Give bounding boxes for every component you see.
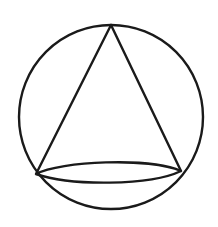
cone-in-sphere-figure bbox=[0, 0, 218, 227]
cone-base-ellipse-bottom bbox=[36, 171, 181, 183]
cone-left-edge bbox=[36, 25, 111, 174]
diagram-canvas bbox=[0, 0, 218, 227]
cone-base-ellipse-top bbox=[36, 162, 181, 174]
outer-circle bbox=[19, 25, 203, 209]
